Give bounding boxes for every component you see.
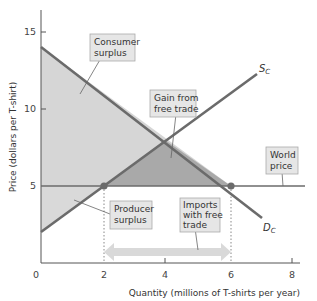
gain-label-2: free trade xyxy=(154,104,199,114)
x-tick-label-6: 6 xyxy=(228,269,234,280)
producer-surplus-label-2: surplus xyxy=(114,215,147,225)
x-tick-label-2: 2 xyxy=(101,269,107,280)
free-trade-chart: 15 10 5 0 2 4 6 8 Price (dollars per T-s… xyxy=(0,0,317,301)
x-axis-title: Quantity (millions of T-shirts per year) xyxy=(129,288,300,298)
consumer-surplus-label-2: surplus xyxy=(94,48,127,58)
x-tick-label-4: 4 xyxy=(162,269,168,280)
imports-label-1: Imports xyxy=(183,200,218,210)
world-price-label-1: World xyxy=(270,150,296,160)
point-q6-world-price xyxy=(227,182,234,189)
x-tick-label-8: 8 xyxy=(289,269,295,280)
producer-surplus-label-1: Producer xyxy=(114,204,154,214)
producer-surplus-leader xyxy=(74,200,110,214)
y-axis-title: Price (dollars per T-shirt) xyxy=(8,82,18,193)
demand-label: DC xyxy=(263,222,276,235)
y-tick-label-5: 5 xyxy=(30,180,36,191)
imports-arrow xyxy=(104,243,231,261)
y-tick-label-15: 15 xyxy=(24,26,36,37)
imports-label-2: with free xyxy=(183,210,223,220)
supply-label: SC xyxy=(259,63,270,76)
y-tick-label-10: 10 xyxy=(24,103,36,114)
point-q2-world-price xyxy=(100,182,107,189)
x-tick-label-0: 0 xyxy=(33,269,39,280)
gain-label-1: Gain from xyxy=(154,93,199,103)
imports-label-3: trade xyxy=(183,220,207,230)
world-price-label-2: price xyxy=(270,161,293,171)
consumer-surplus-label-1: Consumer xyxy=(94,37,140,47)
